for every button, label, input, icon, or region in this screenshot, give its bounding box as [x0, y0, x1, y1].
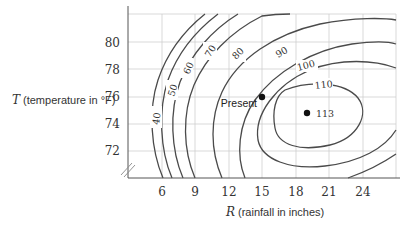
svg-text:74: 74: [105, 117, 121, 131]
svg-text:T(temperature in °F): T(temperature in °F): [12, 93, 115, 107]
svg-text:9: 9: [191, 185, 199, 199]
x-axis-label: R(rainfall in inches): [225, 205, 324, 219]
svg-text:24: 24: [355, 185, 371, 199]
contour-chart: 40 50 60 70 80 90 100 110 6 9 12 15 18 2…: [0, 0, 418, 226]
contour-label-40: 40: [150, 112, 163, 126]
svg-text:R(rainfall in inches): R(rainfall in inches): [225, 205, 324, 219]
svg-text:18: 18: [288, 185, 303, 199]
svg-text:72: 72: [105, 144, 120, 158]
maximum-label: 113: [316, 108, 334, 119]
svg-text:15: 15: [254, 185, 269, 199]
present-label: Present: [221, 97, 257, 109]
x-ticks: 6 9 12 15 18 21 24: [158, 185, 371, 199]
svg-text:12: 12: [221, 185, 236, 199]
contour-40: [152, 14, 205, 178]
contour-label-110: 110: [314, 78, 333, 91]
point-maximum: 113: [304, 108, 334, 119]
contour-lines: [152, 14, 396, 178]
svg-text:6: 6: [158, 185, 166, 199]
svg-text:78: 78: [105, 63, 120, 77]
svg-text:80: 80: [105, 36, 120, 50]
svg-text:21: 21: [321, 185, 336, 199]
y-axis-label: T(temperature in °F): [12, 93, 115, 107]
